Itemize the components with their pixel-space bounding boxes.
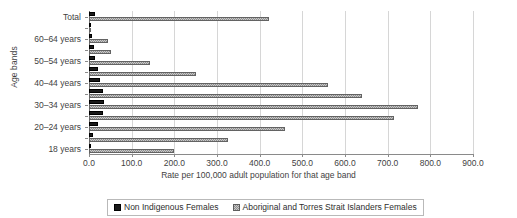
bar-group — [89, 77, 473, 88]
y-tick-mark — [85, 61, 88, 62]
x-tick-label: 200.0 — [164, 158, 185, 168]
bar-non-indigenous-females — [89, 111, 103, 115]
chart-legend: Non Indigenous FemalesAboriginal and Tor… — [107, 199, 424, 216]
x-tick-mark — [217, 154, 218, 157]
bar-group — [89, 11, 473, 22]
bar-non-indigenous-females — [89, 45, 94, 49]
bar-non-indigenous-females — [89, 100, 104, 104]
bar-aboriginal-torres-strait-females — [89, 83, 328, 87]
x-tick-label: 600.0 — [334, 158, 355, 168]
legend-label: Non Indigenous Females — [124, 202, 219, 212]
hatched-grey-square-icon — [233, 204, 240, 211]
bar-non-indigenous-females — [89, 34, 92, 38]
bar-non-indigenous-females — [89, 144, 91, 148]
y-tick-mark — [85, 127, 88, 128]
y-tick-label: 20–24 years — [34, 122, 81, 132]
bar-aboriginal-torres-strait-females — [89, 116, 394, 120]
bar-group — [89, 99, 473, 110]
bar-non-indigenous-females — [89, 12, 95, 16]
bar-group — [89, 22, 473, 33]
legend-label: Aboriginal and Torres Strait Islanders F… — [243, 202, 417, 212]
bar-non-indigenous-females — [89, 56, 95, 60]
y-axis-tick-labels: Total60–64 years50–54 years40–44 years30… — [0, 11, 85, 154]
y-tick-mark — [85, 72, 88, 73]
bar-group — [89, 121, 473, 132]
x-tick-label: 500.0 — [292, 158, 313, 168]
y-tick-mark — [85, 50, 88, 51]
x-tick-mark — [89, 154, 90, 157]
x-tick-label: 700.0 — [377, 158, 398, 168]
bar-aboriginal-torres-strait-females — [89, 28, 91, 32]
bar-group — [89, 88, 473, 99]
bar-aboriginal-torres-strait-females — [89, 50, 111, 54]
bar-non-indigenous-females — [89, 133, 93, 137]
bar-rows — [89, 11, 473, 154]
bar-aboriginal-torres-strait-females — [89, 61, 150, 65]
bar-aboriginal-torres-strait-females — [89, 149, 174, 153]
x-tick-label: 900.0 — [462, 158, 483, 168]
y-tick-label: 50–54 years — [34, 56, 81, 66]
x-axis-ticks: 0.0100.0200.0300.0400.0500.0600.0700.080… — [89, 154, 473, 166]
y-tick-mark — [85, 94, 88, 95]
y-tick-mark — [85, 105, 88, 106]
bar-group — [89, 110, 473, 121]
bar-group — [89, 66, 473, 77]
y-tick-label: Total — [63, 12, 81, 22]
bar-non-indigenous-females — [89, 89, 103, 93]
bar-aboriginal-torres-strait-females — [89, 94, 362, 98]
x-tick-mark — [388, 154, 389, 157]
bar-non-indigenous-females — [89, 78, 100, 82]
x-tick-label: 400.0 — [249, 158, 270, 168]
y-tick-mark — [85, 39, 88, 40]
y-tick-mark — [85, 149, 88, 150]
bar-non-indigenous-females — [89, 67, 98, 71]
x-tick-label: 100.0 — [121, 158, 142, 168]
y-tick-mark — [85, 83, 88, 84]
x-tick-mark — [260, 154, 261, 157]
solid-black-square-icon — [114, 204, 121, 211]
x-tick-label: 800.0 — [420, 158, 441, 168]
y-tick-mark — [85, 138, 88, 139]
y-tick-mark — [85, 116, 88, 117]
x-tick-label: 0.0 — [83, 158, 95, 168]
bar-aboriginal-torres-strait-females — [89, 127, 285, 131]
bar-chart: Age bands Total60–64 years50–54 years40–… — [0, 0, 517, 218]
bar-group — [89, 55, 473, 66]
x-tick-label: 300.0 — [206, 158, 227, 168]
y-tick-label: 60–64 years — [34, 34, 81, 44]
bar-aboriginal-torres-strait-females — [89, 138, 228, 142]
bar-group — [89, 44, 473, 55]
x-tick-mark — [302, 154, 303, 157]
bar-aboriginal-torres-strait-females — [89, 72, 196, 76]
plot-area — [89, 11, 473, 154]
x-axis-title: Rate per 100,000 adult population for th… — [0, 170, 517, 180]
y-tick-mark — [85, 17, 88, 18]
bar-non-indigenous-females — [89, 122, 98, 126]
y-tick-label: 30–34 years — [34, 100, 81, 110]
y-tick-label: 18 years — [48, 144, 81, 154]
legend-item: Non Indigenous Females — [114, 202, 219, 212]
bar-group — [89, 33, 473, 44]
legend-item: Aboriginal and Torres Strait Islanders F… — [233, 202, 417, 212]
bar-aboriginal-torres-strait-females — [89, 39, 108, 43]
bar-aboriginal-torres-strait-females — [89, 105, 418, 109]
x-tick-mark — [132, 154, 133, 157]
x-tick-mark — [430, 154, 431, 157]
bar-group — [89, 143, 473, 154]
bar-group — [89, 132, 473, 143]
y-tick-label: 40–44 years — [34, 78, 81, 88]
bar-non-indigenous-females — [89, 23, 91, 27]
x-tick-mark — [174, 154, 175, 157]
gridline — [473, 11, 474, 154]
bar-aboriginal-torres-strait-females — [89, 17, 269, 21]
x-tick-mark — [473, 154, 474, 157]
y-tick-mark — [85, 28, 88, 29]
x-tick-mark — [345, 154, 346, 157]
